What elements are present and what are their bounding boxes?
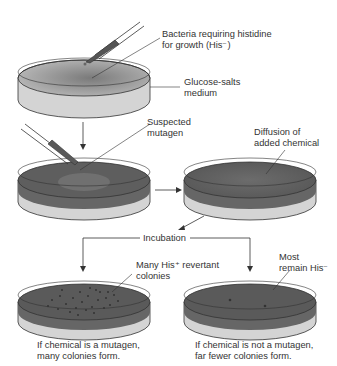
label-result-mutagen: If chemical is a mutagen,many colonies f… [37, 340, 140, 362]
label-bacteria: Bacteria requiring histidinefor growth (… [162, 29, 272, 51]
pipette-icon [21, 124, 78, 165]
label-medium: Glucose-saltsmedium [184, 77, 240, 99]
petri-dish-1 [18, 58, 150, 118]
label-diffusion: Diffusion ofadded chemical [254, 127, 319, 149]
label-result-not-mutagen: If chemical is not a mutagen,far fewer c… [195, 340, 313, 362]
petri-dish-3 [184, 158, 316, 220]
pipette-icon [84, 22, 145, 66]
petri-dish-non-mutagen [184, 281, 316, 340]
ames-test-diagram [0, 0, 337, 366]
label-remain: Mostremain His⁻ [279, 252, 328, 274]
incubation-bracket [83, 238, 140, 268]
arrow-icon [182, 216, 204, 228]
label-mutagen: Suspectedmutagen [147, 117, 191, 139]
label-revertants: Many His⁺ revertantcolonies [136, 260, 219, 282]
label-incubation: Incubation [143, 233, 186, 244]
petri-dish-mutagen [18, 281, 150, 340]
leader-line [80, 124, 150, 170]
